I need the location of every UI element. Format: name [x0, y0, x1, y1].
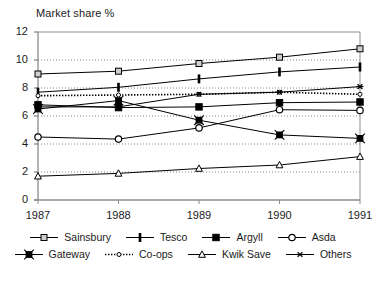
asterisk-icon [285, 249, 315, 260]
triangle-open-icon [187, 249, 217, 260]
x-axis-tick-1990: 1990 [260, 210, 300, 221]
legend-row-2: GatewayCo-opsKwik SaveOthers [0, 246, 379, 263]
circle-open-icon [277, 232, 307, 243]
legend-item-gateway[interactable]: Gateway [14, 249, 104, 260]
legend-row-1: SainsburyTescoArgyllAsda [0, 229, 379, 246]
x-axis-tick-1991: 1991 [340, 210, 379, 221]
y-axis-tick-0: 0 [8, 194, 28, 205]
y-axis-tick-2: 2 [8, 166, 28, 177]
legend-label: Others [320, 249, 352, 260]
legend-item-others[interactable]: Others [285, 249, 366, 260]
y-axis-tick-12: 12 [8, 26, 28, 37]
x-axis-tick-1988: 1988 [99, 210, 139, 221]
chart-legend: SainsburyTescoArgyllAsdaGatewayCo-opsKwi… [0, 229, 379, 263]
circle-small-icon [104, 249, 134, 260]
legend-label: Tesco [160, 232, 187, 243]
legend-label: Co-ops [139, 249, 173, 260]
chart-root: Market share % 024681012 198719881989199… [0, 0, 379, 286]
legend-item-asda[interactable]: Asda [277, 232, 350, 243]
legend-item-co-ops[interactable]: Co-ops [104, 249, 187, 260]
series-tesco [37, 63, 362, 97]
square-x-icon [14, 249, 44, 260]
y-axis-tick-8: 8 [8, 82, 28, 93]
legend-label: Sainsbury [64, 232, 111, 243]
series-sainsbury [35, 46, 363, 77]
legend-label: Gateway [49, 249, 90, 260]
legend-item-argyll[interactable]: Argyll [201, 232, 276, 243]
x-axis-tick-1987: 1987 [18, 210, 58, 221]
legend-label: Asda [312, 232, 336, 243]
y-axis-tick-4: 4 [8, 138, 28, 149]
bar-vertical-icon [125, 232, 155, 243]
square-open-icon [29, 232, 59, 243]
legend-item-sainsbury[interactable]: Sainsbury [29, 232, 125, 243]
legend-item-kwik-save[interactable]: Kwik Save [187, 249, 285, 260]
y-axis-tick-10: 10 [8, 54, 28, 65]
legend-item-tesco[interactable]: Tesco [125, 232, 201, 243]
series-asda [35, 107, 363, 143]
series-argyll [35, 99, 363, 111]
square-filled-icon [201, 232, 231, 243]
series-kwik-save [35, 153, 364, 179]
legend-label: Argyll [236, 232, 262, 243]
legend-label: Kwik Save [222, 249, 271, 260]
x-axis-tick-1989: 1989 [179, 210, 219, 221]
series-gateway [33, 96, 365, 143]
y-axis-tick-6: 6 [8, 110, 28, 121]
